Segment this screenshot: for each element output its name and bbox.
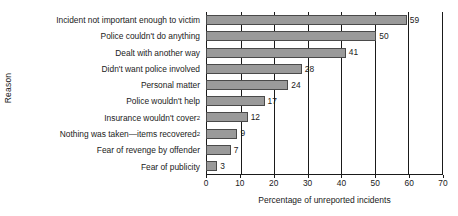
bar-series: 59504128241712973 [207, 12, 442, 174]
bar-value-label: 17 [268, 97, 277, 105]
category-label-text: Personal matter [141, 81, 200, 89]
tick-label: 40 [337, 179, 346, 187]
category-label-text: Fear of revenge by offender [97, 146, 200, 154]
tick-label: 10 [235, 179, 244, 187]
category-label-text: Police couldn't do anything [101, 32, 200, 40]
bar-value-label: 50 [379, 32, 388, 40]
y-axis-title-text: Reason [3, 73, 13, 104]
category-label-text: Incident not important enough to victim [56, 16, 200, 24]
category-label: Dealt with another way [16, 45, 203, 61]
category-label-text: Dealt with another way [115, 49, 200, 57]
bar-value-label: 28 [305, 65, 314, 73]
category-label-text: Nothing was taken—items recovered [60, 130, 197, 138]
bar [206, 161, 217, 171]
tick-label: 50 [371, 179, 380, 187]
bar-row: 41 [207, 44, 442, 60]
plot-area: 59504128241712973 [206, 12, 443, 175]
bar [206, 31, 376, 41]
tick-label: 0 [204, 179, 209, 187]
bar [206, 96, 265, 106]
category-label: Fear of revenge by offender [16, 142, 203, 158]
bar [206, 15, 407, 25]
bar-row: 3 [207, 158, 442, 174]
category-label: Insurance wouldn't cover2 [16, 110, 203, 126]
category-label: Didn't want police involved [16, 61, 203, 77]
bar-value-label: 3 [220, 162, 225, 170]
bar [206, 48, 346, 58]
category-label: Police couldn't do anything [16, 28, 203, 44]
bar-value-label: 12 [251, 113, 260, 121]
bar-row: 9 [207, 125, 442, 141]
y-axis-title: Reason [0, 0, 16, 176]
category-axis-labels: Incident not important enough to victimP… [16, 12, 203, 175]
category-label-text: Fear of publicity [141, 163, 200, 171]
bar [206, 80, 288, 90]
bar [206, 129, 237, 139]
bar [206, 112, 248, 122]
bar-value-label: 24 [291, 81, 300, 89]
bar-row: 24 [207, 77, 442, 93]
bar-row: 28 [207, 61, 442, 77]
tick-label: 20 [269, 179, 278, 187]
bar-value-label: 7 [234, 146, 239, 154]
x-axis-title: Percentage of unreported incidents [206, 196, 443, 205]
bar-row: 12 [207, 109, 442, 125]
category-label: Personal matter [16, 77, 203, 93]
category-label-text: Police wouldn't help [126, 97, 200, 105]
tick-label: 70 [438, 179, 447, 187]
tick-label: 60 [404, 179, 413, 187]
bar-value-label: 41 [349, 48, 358, 56]
category-label: Police wouldn't help [16, 93, 203, 109]
category-label-text: Didn't want police involved [102, 65, 200, 73]
tick-label: 30 [303, 179, 312, 187]
bar-value-label: 9 [240, 129, 245, 137]
bar [206, 64, 302, 74]
category-label: Nothing was taken—items recovered2 [16, 126, 203, 142]
category-label: Fear of publicity [16, 159, 203, 175]
bar-row: 7 [207, 142, 442, 158]
x-axis-tick-labels: 010203040506070 [206, 179, 443, 191]
category-label-text: Insurance wouldn't cover [104, 114, 196, 122]
category-label: Incident not important enough to victim [16, 12, 203, 28]
bar-row: 59 [207, 12, 442, 28]
bar-row: 50 [207, 28, 442, 44]
bar-value-label: 59 [410, 16, 419, 24]
bar [206, 145, 231, 155]
bar-row: 17 [207, 93, 442, 109]
bar-chart: Reason Incident not important enough to … [0, 0, 458, 216]
